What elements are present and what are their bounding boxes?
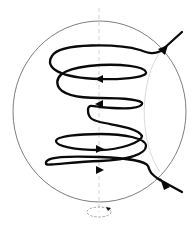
sphere-back-arc [144, 52, 160, 172]
trajectory-loop-3 [46, 134, 160, 180]
trajectory-loop-1 [50, 45, 161, 86]
arrow-rightward-2-icon [96, 166, 104, 174]
trajectory-loop-2 [58, 86, 142, 136]
arrow-rightward-1-icon [96, 145, 104, 153]
trajectory [46, 32, 182, 192]
helix-trajectory-diagram [0, 0, 194, 228]
sphere-outline [13, 21, 186, 202]
